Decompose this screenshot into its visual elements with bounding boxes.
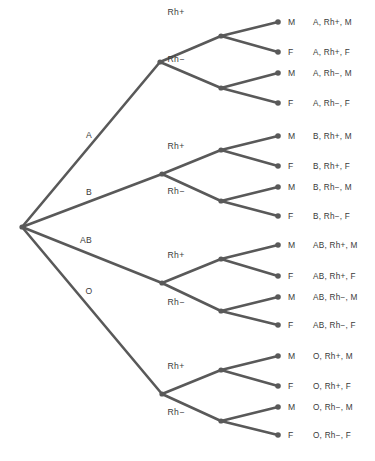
root-node-dot bbox=[19, 224, 24, 229]
outcome-label: AB, Rh+, F bbox=[313, 272, 356, 281]
branch-label-rh-A-neg: Rh− bbox=[168, 54, 185, 64]
leaf-node-dot bbox=[275, 100, 281, 106]
edge-sex-B-pos-F bbox=[221, 150, 278, 166]
leaf-label-sex: M bbox=[288, 292, 295, 302]
leaf-node-dot bbox=[275, 213, 281, 219]
rh-node-dot bbox=[218, 256, 223, 261]
leaf-label-sex: M bbox=[288, 351, 295, 361]
leaf-node-dot bbox=[275, 383, 281, 389]
edge-sex-AB-pos-F bbox=[221, 259, 278, 276]
leaf-label-sex: M bbox=[288, 240, 295, 250]
edge-sex-A-pos-F bbox=[221, 36, 278, 52]
rh-node-dot bbox=[218, 198, 223, 203]
leaf-node-dot bbox=[275, 49, 281, 55]
tree-diagram-canvas: ARh+MA, Rh+, MFA, Rh+, FRh−MA, Rh−, MFA,… bbox=[0, 0, 375, 461]
edge-rh-B-pos bbox=[162, 150, 221, 174]
outcome-label: AB, Rh−, F bbox=[313, 321, 356, 330]
blood-type-node-dot bbox=[159, 391, 164, 396]
outcome-label: B, Rh−, F bbox=[313, 212, 350, 221]
outcome-label: O, Rh+, F bbox=[313, 382, 351, 391]
edge-sex-B-neg-F bbox=[221, 201, 278, 216]
tree-labels: ARh+MA, Rh+, MFA, Rh+, FRh−MA, Rh−, MFA,… bbox=[80, 7, 358, 440]
outcome-label: A, Rh+, F bbox=[313, 48, 350, 57]
leaf-label-sex: F bbox=[288, 271, 294, 281]
edge-blood-type-O bbox=[22, 227, 162, 394]
outcome-label: AB, Rh−, M bbox=[313, 293, 358, 302]
rh-node-dot bbox=[218, 147, 223, 152]
leaf-label-sex: F bbox=[288, 98, 294, 108]
edge-sex-O-neg-F bbox=[221, 421, 278, 435]
outcome-label: O, Rh−, M bbox=[313, 403, 353, 412]
branch-label-blood-type-AB: AB bbox=[80, 235, 92, 245]
edge-rh-O-pos bbox=[162, 370, 221, 394]
leaf-label-sex: M bbox=[288, 68, 295, 78]
rh-node-dot bbox=[218, 85, 223, 90]
outcome-label: O, Rh−, F bbox=[313, 431, 351, 440]
branch-label-blood-type-B: B bbox=[86, 187, 92, 197]
blood-type-node-dot bbox=[159, 171, 164, 176]
leaf-label-sex: F bbox=[288, 161, 294, 171]
blood-type-node-dot bbox=[157, 59, 162, 64]
leaf-node-dot bbox=[275, 242, 281, 248]
leaf-label-sex: M bbox=[288, 182, 295, 192]
edge-sex-AB-neg-F bbox=[221, 311, 278, 325]
outcome-label: B, Rh+, F bbox=[313, 162, 350, 171]
leaf-label-sex: F bbox=[288, 211, 294, 221]
branch-label-rh-AB-pos: Rh+ bbox=[168, 250, 185, 260]
leaf-node-dot bbox=[275, 273, 281, 279]
edge-sex-AB-neg-M bbox=[221, 297, 278, 311]
leaf-label-sex: F bbox=[288, 381, 294, 391]
outcome-label: B, Rh+, M bbox=[313, 132, 352, 141]
edge-sex-B-neg-M bbox=[221, 187, 278, 201]
edge-rh-AB-pos bbox=[162, 259, 221, 283]
rh-node-dot bbox=[218, 367, 223, 372]
edge-rh-A-neg bbox=[160, 62, 221, 88]
branch-label-rh-B-neg: Rh− bbox=[168, 186, 185, 196]
rh-node-dot bbox=[218, 308, 223, 313]
edge-sex-A-neg-M bbox=[221, 73, 278, 88]
outcome-label: B, Rh−, M bbox=[313, 183, 352, 192]
edge-sex-AB-pos-M bbox=[221, 245, 278, 259]
probability-tree-diagram: ARh+MA, Rh+, MFA, Rh+, FRh−MA, Rh−, MFA,… bbox=[0, 0, 375, 461]
edge-sex-O-neg-M bbox=[221, 407, 278, 421]
tree-edges bbox=[22, 22, 278, 435]
edge-sex-B-pos-M bbox=[221, 136, 278, 150]
branch-label-rh-A-pos: Rh+ bbox=[168, 7, 185, 17]
leaf-label-sex: F bbox=[288, 430, 294, 440]
outcome-label: A, Rh−, M bbox=[313, 69, 352, 78]
leaf-node-dot bbox=[275, 133, 281, 139]
leaf-node-dot bbox=[275, 19, 281, 25]
outcome-label: O, Rh+, M bbox=[313, 352, 353, 361]
leaf-label-sex: M bbox=[288, 402, 295, 412]
outcome-label: AB, Rh+, M bbox=[313, 241, 358, 250]
leaf-label-sex: M bbox=[288, 17, 295, 27]
branch-label-rh-B-pos: Rh+ bbox=[168, 141, 185, 151]
branch-label-blood-type-O: O bbox=[86, 286, 93, 296]
blood-type-node-dot bbox=[159, 280, 164, 285]
leaf-node-dot bbox=[275, 432, 281, 438]
branch-label-blood-type-A: A bbox=[86, 130, 92, 140]
leaf-label-sex: M bbox=[288, 131, 295, 141]
branch-label-rh-O-pos: Rh+ bbox=[168, 361, 185, 371]
rh-node-dot bbox=[218, 33, 223, 38]
branch-label-rh-O-neg: Rh− bbox=[168, 407, 185, 417]
edge-sex-A-neg-F bbox=[221, 88, 278, 103]
leaf-node-dot bbox=[275, 404, 281, 410]
leaf-node-dot bbox=[275, 322, 281, 328]
edge-sex-A-pos-M bbox=[221, 22, 278, 36]
outcome-label: A, Rh+, M bbox=[313, 18, 352, 27]
leaf-label-sex: F bbox=[288, 47, 294, 57]
leaf-label-sex: F bbox=[288, 320, 294, 330]
leaf-node-dot bbox=[275, 353, 281, 359]
edge-sex-O-pos-F bbox=[221, 370, 278, 386]
leaf-node-dot bbox=[275, 294, 281, 300]
branch-label-rh-AB-neg: Rh− bbox=[168, 297, 185, 307]
edge-sex-O-pos-M bbox=[221, 356, 278, 370]
leaf-node-dot bbox=[275, 184, 281, 190]
outcome-label: A, Rh−, F bbox=[313, 99, 350, 108]
leaf-node-dot bbox=[275, 70, 281, 76]
rh-node-dot bbox=[218, 418, 223, 423]
leaf-node-dot bbox=[275, 163, 281, 169]
